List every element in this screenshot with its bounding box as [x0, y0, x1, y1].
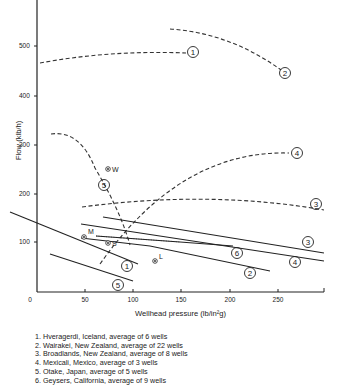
x-tick-200: 200 [225, 296, 236, 303]
marker-2-lower: 2 [248, 269, 253, 278]
y-tick-500: 500 [19, 42, 30, 49]
curve-2-dashed [170, 29, 281, 70]
point-l: L [159, 253, 163, 260]
marker-3-lower: 3 [306, 238, 311, 247]
y-tick-100: 100 [19, 238, 30, 245]
marker-1-upper: 1 [191, 48, 196, 57]
curve-3-dashed [82, 199, 324, 210]
marker-5-upper: 5 [102, 181, 107, 190]
curve-1-dashed [40, 52, 186, 63]
marker-4-upper: 4 [295, 149, 300, 158]
x-tick-0: 0 [28, 296, 32, 303]
y-axis-label: Flow (klb/h) [14, 121, 23, 160]
legend-item-6: 6. Geysers, California, average of 9 wel… [35, 377, 188, 385]
point-s: S [112, 240, 117, 247]
marker-1-lower: 1 [125, 262, 130, 271]
marker-6: 6 [235, 249, 240, 258]
marker-4-lower: 4 [293, 258, 298, 267]
x-axis-label: Wellhead pressure (lb/in²g) [135, 309, 226, 318]
x-ticks: 0 50 100 150 200 250 [28, 289, 284, 303]
x-tick-50: 50 [81, 296, 89, 303]
point-annotations: W M S L [82, 166, 163, 263]
legend: 1. Hveragerdi, Iceland, average of 6 wel… [35, 333, 188, 385]
marker-3-upper: 3 [314, 200, 319, 209]
x-tick-150: 150 [176, 296, 187, 303]
point-w: W [112, 166, 119, 173]
y-tick-200: 200 [19, 190, 30, 197]
line-5-solid [50, 254, 133, 281]
point-m: M [88, 228, 94, 235]
marker-5-lower: 5 [116, 281, 121, 290]
line-3-solid [103, 217, 324, 253]
y-tick-400: 400 [19, 92, 30, 99]
x-tick-100: 100 [128, 296, 139, 303]
series-markers: 1 2 5 4 3 1 5 3 4 6 2 [99, 47, 322, 291]
marker-2-upper: 2 [283, 69, 288, 78]
curve-4-dashed [100, 153, 289, 264]
x-tick-250: 250 [273, 296, 284, 303]
